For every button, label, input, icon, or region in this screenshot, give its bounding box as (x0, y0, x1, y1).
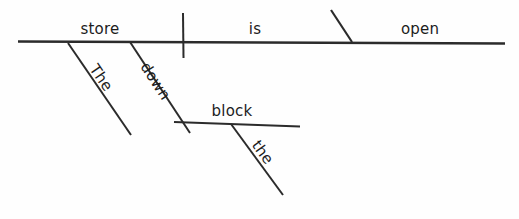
word-object-block: block (212, 104, 253, 119)
word-verb: is (249, 22, 261, 37)
prepositional-object-line (174, 122, 300, 127)
predicate-adjective-slant (331, 10, 352, 42)
main-baseline (18, 42, 505, 44)
subject-verb-divider (183, 13, 184, 58)
sentence-diagram-canvas: store is open The down block the (0, 0, 519, 219)
word-complement: open (401, 22, 439, 37)
word-subject: store (81, 22, 120, 37)
